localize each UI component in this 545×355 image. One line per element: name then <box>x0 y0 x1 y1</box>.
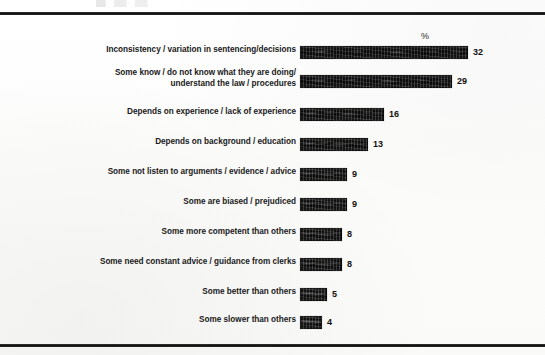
bar-category-label: Some are biased / prejudiced <box>183 197 296 208</box>
bar-category-label: Some not listen to arguments / evidence … <box>108 167 296 178</box>
bar-category-label: Some better than others <box>202 287 296 298</box>
bar <box>300 138 368 151</box>
bar-track: 29 <box>300 75 482 88</box>
bar-track: 5 <box>300 288 357 301</box>
bar-category-label: Inconsistency / variation in sentencing/… <box>106 45 296 56</box>
bar-value-label: 5 <box>332 289 337 299</box>
bar-category-label: Some know / do not know what they are do… <box>115 68 296 89</box>
bar-category-label: Depends on background / education <box>155 137 296 148</box>
bar <box>300 108 384 121</box>
bar-track: 4 <box>300 316 352 329</box>
bar-track: 9 <box>300 168 377 181</box>
bar-track: 8 <box>300 258 372 271</box>
chart-page: % Inconsistency / variation in sentencin… <box>0 0 545 355</box>
bar-track: 9 <box>300 198 377 211</box>
bar-track: 13 <box>300 138 398 151</box>
bar-track: 32 <box>300 46 498 59</box>
bar <box>300 198 347 211</box>
bar-category-label: Some slower than others <box>199 315 296 326</box>
bar <box>300 288 327 301</box>
bar-value-label: 4 <box>327 317 332 327</box>
bar <box>300 258 342 271</box>
bar-track: 16 <box>300 108 414 121</box>
bar-value-label: 8 <box>347 259 352 269</box>
bar-value-label: 32 <box>473 47 483 57</box>
bar-value-label: 9 <box>352 169 357 179</box>
bar <box>300 228 342 241</box>
bar-track: 8 <box>300 228 372 241</box>
bar <box>300 316 322 329</box>
bar-value-label: 16 <box>389 109 399 119</box>
bar-category-label: Some need constant advice / guidance fro… <box>100 257 296 268</box>
bar-value-label: 29 <box>457 76 467 86</box>
bar-value-label: 9 <box>352 199 357 209</box>
bar <box>300 75 452 88</box>
bar <box>300 46 468 59</box>
bar <box>300 168 347 181</box>
bar-value-label: 13 <box>373 139 383 149</box>
bar-category-label: Some more competent than others <box>162 227 297 238</box>
bar-value-label: 8 <box>347 229 352 239</box>
bar-category-label: Depends on experience / lack of experien… <box>127 107 296 118</box>
bar-chart-plot: Inconsistency / variation in sentencing/… <box>0 0 545 355</box>
